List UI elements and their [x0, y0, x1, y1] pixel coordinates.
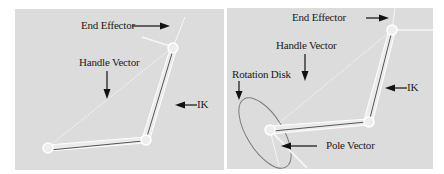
bone-lower	[364, 30, 395, 124]
right-panel: End Effector Handle Vector Rotation Disk…	[227, 8, 433, 169]
left-panel: End Effector Handle Vector IK	[15, 9, 224, 170]
label-handle-vector: Handle Vector	[276, 39, 336, 51]
label-pole-vector: Pole Vector	[326, 139, 375, 151]
end-effector-arrowhead-icon	[160, 23, 170, 30]
label-end-effector: End Effector	[292, 11, 346, 23]
handle-vector-arrowhead-icon	[302, 71, 309, 81]
bone-lower-core	[369, 31, 392, 122]
end-effector-arrowhead-icon	[379, 15, 389, 22]
joint-root	[43, 143, 53, 153]
label-rotation-disk: Rotation Disk	[232, 68, 291, 80]
joint-end	[387, 25, 397, 35]
ik-arrowhead-icon	[175, 102, 185, 109]
joint-end	[168, 43, 178, 53]
bone-lower-core	[146, 50, 173, 140]
ik-arrowhead-icon	[385, 85, 395, 92]
joint-mid	[141, 135, 151, 145]
label-ik: IK	[197, 98, 208, 110]
label-end-effector: End Effector	[81, 19, 135, 31]
rotation-disk-arrowhead-icon	[236, 91, 243, 100]
label-ik: IK	[407, 81, 418, 93]
pole-vector-line	[270, 130, 307, 168]
label-handle-vector: Handle Vector	[79, 56, 139, 68]
joint-root	[265, 125, 275, 135]
effector-axis-y	[173, 17, 185, 47]
joint-mid	[364, 117, 374, 127]
ik-chain-left-diagram	[15, 9, 224, 170]
